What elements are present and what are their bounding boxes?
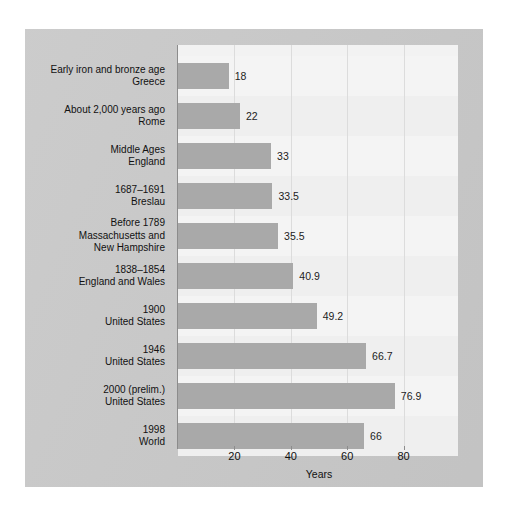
bar-value-label: 40.9	[293, 270, 319, 282]
bar[interactable]	[178, 183, 272, 209]
category-label: Early iron and bronze age Greece	[50, 64, 165, 89]
bar-value-label: 66	[364, 430, 382, 442]
category-label: 1998 World	[139, 424, 165, 449]
bar-row[interactable]: 66.7	[178, 343, 483, 369]
bar[interactable]	[178, 263, 293, 289]
bar-row[interactable]: 33.5	[178, 183, 483, 209]
bar-row[interactable]: 22	[178, 103, 483, 129]
category-label: Before 1789 Massachusetts and New Hampsh…	[79, 217, 165, 255]
bar[interactable]	[178, 303, 317, 329]
category-label: 1838–1854 England and Wales	[79, 264, 165, 289]
bar[interactable]	[178, 143, 271, 169]
bar-row[interactable]: 40.9	[178, 263, 483, 289]
bar-row[interactable]: 33	[178, 143, 483, 169]
x-axis-ticks: 20406080	[0, 446, 508, 466]
bar-value-label: 66.7	[366, 350, 392, 362]
bar-value-label: 76.9	[395, 390, 421, 402]
bar[interactable]	[178, 103, 240, 129]
bar-value-label: 33.5	[272, 190, 298, 202]
x-tick-label-60: 60	[341, 450, 353, 462]
bar-value-label: 49.2	[317, 310, 343, 322]
bar-value-label: 35.5	[278, 230, 304, 242]
bar-value-label: 33	[271, 150, 289, 162]
x-tick-label-20: 20	[228, 450, 240, 462]
bars-layer: 18223333.535.540.949.266.776.966	[178, 45, 483, 446]
category-label: 1900 United States	[105, 304, 165, 329]
bar-value-label: 22	[240, 110, 258, 122]
bar[interactable]	[178, 343, 366, 369]
category-label: 1946 United States	[105, 344, 165, 369]
category-labels: Early iron and bronze age GreeceAbout 2,…	[0, 45, 172, 446]
category-label: Middle Ages England	[111, 144, 165, 169]
category-label: 2000 (prelim.) United States	[103, 384, 165, 409]
bar[interactable]	[178, 223, 278, 249]
life-expectancy-bar-chart: 18223333.535.540.949.266.776.966 Early i…	[0, 0, 508, 517]
x-tick-label-80: 80	[397, 450, 409, 462]
x-axis-title-text: Years	[306, 468, 332, 480]
bar-row[interactable]: 76.9	[178, 383, 483, 409]
category-label: 1687–1691 Breslau	[115, 184, 165, 209]
bar-row[interactable]: 49.2	[178, 303, 483, 329]
bar-row[interactable]: 35.5	[178, 223, 483, 249]
x-tick-label-40: 40	[285, 450, 297, 462]
bar-row[interactable]: 18	[178, 63, 483, 89]
category-label: About 2,000 years ago Rome	[64, 104, 165, 129]
bar[interactable]	[178, 383, 395, 409]
bar-value-label: 18	[229, 70, 247, 82]
x-axis-title: Years	[65, 468, 508, 480]
bar[interactable]	[178, 63, 229, 89]
